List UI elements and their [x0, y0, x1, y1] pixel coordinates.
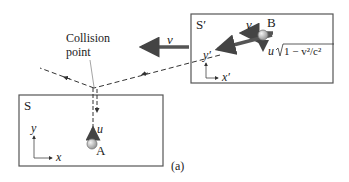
b-velocity-radicand: 1 − v²/c² — [284, 45, 322, 57]
s-prime-axis-y-label: y′ — [202, 48, 211, 62]
particle-b — [258, 30, 268, 40]
collision-label-line1: Collision — [66, 31, 110, 45]
b-velocity-u-label: u — [268, 44, 274, 58]
b-after-arrowhead — [64, 77, 70, 79]
collision-leader-line — [90, 60, 94, 87]
s-prime-axis-x-label: x′ — [221, 70, 230, 84]
particle-a-label: A — [96, 143, 106, 158]
collision-label-line2: point — [66, 45, 91, 59]
frame-s-prime-label: S′ — [196, 17, 206, 32]
s-axis-y-label: y — [30, 121, 37, 135]
a-velocity-label: u — [97, 122, 103, 136]
particle-b-label: B — [267, 15, 276, 30]
relativistic-collision-diagram: S′ S v v B u 1 − v²/c² y′ x′ Collision p… — [0, 0, 349, 182]
frame-s-label: S — [24, 98, 31, 113]
frame-velocity-label: v — [167, 32, 173, 47]
figure-label: (a) — [171, 159, 184, 173]
b-velocity-label: v — [246, 17, 252, 32]
frame-s-box — [19, 95, 163, 166]
s-axis-x-label: x — [55, 150, 62, 164]
